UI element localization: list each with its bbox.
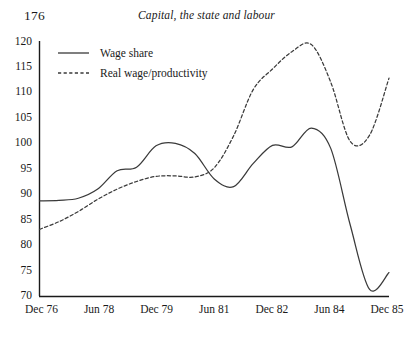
book-page: 176 Capital, the state and labour 120115… [0,0,413,337]
legend-label-wage-share: Wage share [100,48,153,60]
y-tick-label: 85 [6,214,32,226]
y-tick-label: 95 [6,163,32,175]
x-tick-label: Dec 85 [357,304,413,316]
y-tick-label: 105 [6,112,32,124]
series-line-real-wage-productivity [40,43,390,229]
x-tick-label: Jun 81 [184,304,244,316]
y-tick-label: 80 [6,239,32,251]
y-tick-label: 115 [6,61,32,73]
y-tick-label: 110 [6,86,32,98]
y-tick-label: 100 [6,137,32,149]
y-tick-label: 75 [6,265,32,277]
running-head: Capital, the state and labour [0,9,413,21]
y-tick-label: 70 [6,290,32,302]
page-header: 176 Capital, the state and labour [0,8,413,28]
line-chart-figure: 120115110105100959085807570 Dec 76Jun 78… [0,28,413,337]
y-tick-label: 90 [6,188,32,200]
x-tick-label: Dec 76 [12,304,72,316]
y-tick-label: 120 [6,36,32,48]
x-tick-label: Jun 78 [69,304,129,316]
series-line-wage-share [40,128,390,291]
legend-label-real-wage-productivity: Real wage/productivity [100,68,208,80]
x-tick-label: Dec 79 [127,304,187,316]
x-tick-label: Dec 82 [242,304,302,316]
x-tick-label: Jun 84 [299,304,359,316]
